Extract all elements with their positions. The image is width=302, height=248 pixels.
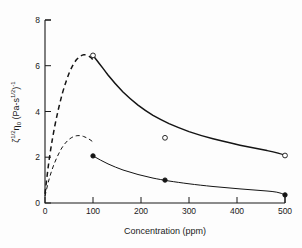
axis-frame — [45, 20, 285, 203]
figure-root: 0 100 200 300 400 500 0 2 4 6 8 — [0, 0, 302, 248]
x-tick-label-100: 100 — [86, 206, 100, 216]
x-tick-marks — [45, 197, 285, 203]
data-point-marker — [91, 154, 95, 158]
x-tick-label-300: 300 — [182, 206, 196, 216]
y-axis-title-text: ζ1/2η0 (Pa-s1/2)-1 — [10, 81, 22, 143]
data-point-marker — [91, 53, 96, 58]
data-point-marker — [163, 178, 167, 182]
x-tick-label-500: 500 — [278, 206, 292, 216]
y-label-unit-inverse: -1 — [10, 81, 16, 87]
x-tick-label-400: 400 — [230, 206, 244, 216]
y-tick-label-2: 2 — [35, 152, 40, 162]
y-tick-label-6: 6 — [35, 61, 40, 71]
data-point-marker — [283, 153, 288, 158]
y-tick-label-8: 8 — [35, 15, 40, 25]
lower-curve-dashed-segment — [45, 136, 93, 197]
x-tick-label-0: 0 — [43, 206, 48, 216]
lower-curve-solid-segment — [93, 156, 285, 195]
y-tick-label-4: 4 — [35, 107, 40, 117]
upper-curve-markers — [91, 53, 288, 158]
plot-axes — [45, 20, 285, 203]
x-axis-title: Concentration (ppm) — [124, 226, 206, 236]
data-point-marker — [283, 193, 287, 197]
y-tick-label-0: 0 — [35, 198, 40, 208]
data-point-marker — [163, 135, 168, 140]
y-tick-labels: 0 2 4 6 8 — [35, 15, 40, 208]
x-tick-label-200: 200 — [134, 206, 148, 216]
y-label-unit-open: (Pa-s — [11, 98, 21, 123]
x-tick-labels: 0 100 200 300 400 500 — [43, 206, 293, 216]
y-axis-title: ζ1/2η0 (Pa-s1/2)-1 — [10, 81, 22, 143]
upper-curve-solid-segment — [93, 55, 285, 155]
chart-canvas: 0 100 200 300 400 500 0 2 4 6 8 — [0, 0, 302, 248]
upper-curve-dashed-segment — [45, 55, 93, 194]
